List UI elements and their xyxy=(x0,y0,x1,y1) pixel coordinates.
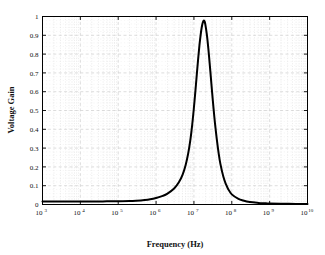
x-axis-title: Frequency (Hz) xyxy=(147,239,204,249)
svg-text:10: 10 xyxy=(73,209,81,217)
svg-text:10: 10 xyxy=(111,209,119,217)
y-tick-label: 0.3 xyxy=(30,145,39,153)
y-tick-label: 0.1 xyxy=(30,182,39,190)
y-tick-label: 1 xyxy=(35,13,39,21)
y-tick-label: 0.8 xyxy=(30,51,39,59)
y-tick-label: 0 xyxy=(35,201,39,209)
y-axis-title: Voltage Gain xyxy=(6,86,16,133)
y-tick-label: 0.5 xyxy=(30,107,39,115)
y-tick-label: 0.2 xyxy=(30,164,39,172)
svg-text:10: 10 xyxy=(187,209,195,217)
svg-text:10: 10 xyxy=(225,209,233,217)
y-tick-label: 0.7 xyxy=(30,70,39,78)
svg-text:10: 10 xyxy=(36,209,44,217)
svg-text:10: 10 xyxy=(308,208,314,213)
y-tick-label: 0.4 xyxy=(30,126,39,134)
voltage-gain-plot: 1031041051061071081091010 00.10.20.30.40… xyxy=(0,0,325,255)
y-tick-label: 0.6 xyxy=(30,88,39,96)
svg-text:10: 10 xyxy=(263,209,271,217)
chart-figure: 1031041051061071081091010 00.10.20.30.40… xyxy=(0,0,325,255)
svg-text:10: 10 xyxy=(301,209,309,217)
figure-background xyxy=(0,0,325,255)
y-tick-label: 0.9 xyxy=(30,32,39,40)
svg-text:10: 10 xyxy=(149,209,157,217)
